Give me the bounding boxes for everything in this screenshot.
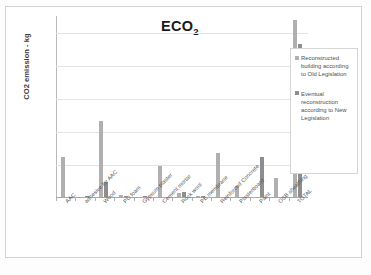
y-axis-title: CO2 emission - kg xyxy=(22,0,31,137)
bar xyxy=(274,178,278,197)
bar-group xyxy=(274,16,284,197)
x-axis-tick-labels: AACadhesive for AACWoodPU foamGypsum pla… xyxy=(56,200,316,270)
bar-group xyxy=(61,16,71,197)
bar-group xyxy=(119,16,129,197)
bar xyxy=(196,196,200,197)
bar xyxy=(119,195,123,197)
bar-group xyxy=(196,16,206,197)
bar-group xyxy=(216,16,226,197)
legend-label: Reconstructed building according to Old … xyxy=(301,54,354,79)
legend-label: Eventual reconstruction according to New… xyxy=(301,90,354,123)
y-axis-line xyxy=(56,16,57,198)
bar-group xyxy=(99,16,109,197)
legend-entry: Reconstructed building according to Old … xyxy=(294,54,354,79)
bar-group xyxy=(158,16,168,197)
legend-entry: Eventual reconstruction according to New… xyxy=(294,90,354,123)
bar-group xyxy=(177,16,187,197)
bar-group xyxy=(80,16,90,197)
bar-group xyxy=(138,16,148,197)
bar xyxy=(177,193,181,197)
plot-area: 0200040006000800010000 xyxy=(56,16,308,198)
bar xyxy=(61,157,65,197)
figure-canvas: ECO2 CO2 emission - kg 02000400060008000… xyxy=(0,0,371,275)
legend-swatch-icon xyxy=(295,56,299,60)
chart-legend: Reconstructed building according to Old … xyxy=(290,48,358,174)
bar-group xyxy=(235,16,245,197)
legend-swatch-icon xyxy=(295,91,299,95)
